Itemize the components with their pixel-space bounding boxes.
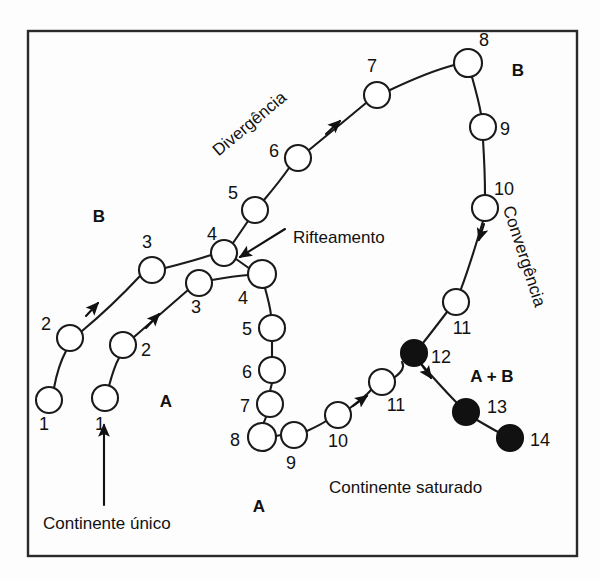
node-label-b7: 7 [367,56,377,76]
node-a8[interactable] [248,423,276,451]
link-a3-a4 [212,275,248,280]
node-label-b5: 5 [228,183,238,203]
link-a4-a5 [265,288,271,315]
node-b1[interactable] [36,387,62,413]
node-a7[interactable] [257,391,283,417]
region-label-a-bottom: A [253,497,265,516]
node-label-b2: 2 [41,314,51,334]
link-a9-a10 [307,421,326,431]
link-b4-b5 [233,221,248,243]
link-b3-b4 [165,255,211,268]
link-b1-b2 [54,351,66,388]
node-label-b4: 4 [207,224,217,244]
node-a1[interactable] [92,385,118,411]
link-c12-c13 [422,365,457,403]
rifteamento-arrow-icon [240,229,285,257]
node-label-b3: 3 [142,232,152,252]
link-b4-a4 [236,259,250,269]
link-a1-a2 [109,358,119,386]
node-c12[interactable] [401,340,427,366]
link-b11-c12 [423,312,447,343]
link-c13-c14 [477,420,500,433]
node-label-a9: 9 [286,453,296,473]
node-a3[interactable] [186,270,212,296]
node-a4[interactable] [248,260,276,288]
node-c13[interactable] [453,399,479,425]
region-label-a-left: A [160,392,172,411]
wilson-cycle-diagram: 1 2 3 4 5 6 7 8 9 10 11 12 13 14 1 2 3 4… [0,0,600,580]
figure-root: 1 2 3 4 5 6 7 8 9 10 11 12 13 14 1 2 3 4… [0,0,600,580]
node-a2[interactable] [110,332,136,358]
link-b8-b9 [472,77,481,114]
link-a11-c12 [395,362,403,377]
a-convergencia-arrow-icon [353,396,367,406]
node-b7[interactable] [364,82,390,108]
node-b8[interactable] [454,49,482,77]
continente-saturado-label: Continente saturado [329,478,482,497]
region-label-ab: A + B [470,367,513,386]
link-b10-b11 [461,221,483,289]
divergencia-arrow-a-icon [146,314,159,328]
node-label-a3: 3 [191,297,201,317]
link-b9-b10 [483,140,485,195]
node-c14[interactable] [497,425,523,451]
divergencia-arrow-b-icon [86,303,98,316]
node-label-a4: 4 [238,288,248,308]
rifteamento-label: Rifteamento [293,228,385,247]
node-label-a8: 8 [230,430,240,450]
node-a5[interactable] [259,315,285,341]
node-b6[interactable] [285,145,311,171]
node-label-a5: 5 [242,319,252,339]
node-a11[interactable] [369,369,395,395]
link-b2-b3 [82,276,140,331]
node-label-a11: 11 [387,395,406,415]
convergencia-label: Convergência [499,203,550,309]
link-b6-b7 [309,103,366,150]
node-label-a1: 1 [95,414,105,434]
link-b5-b6 [264,168,289,200]
link-b7-b8 [390,65,454,90]
node-label-b11: 11 [453,318,472,338]
node-label-c13: 13 [487,397,507,417]
region-label-b-left: B [93,207,105,226]
link-a2-a3 [134,290,188,337]
node-b5[interactable] [242,197,268,223]
node-b9[interactable] [470,114,496,140]
node-label-b9: 9 [500,119,510,139]
node-b2[interactable] [57,325,83,351]
node-label-a2: 2 [141,340,151,360]
node-label-a10: 10 [328,431,348,451]
node-label-b1: 1 [39,414,49,434]
link-a6-a7 [270,383,272,391]
node-a6[interactable] [259,357,285,383]
node-b3[interactable] [139,257,165,283]
figure-frame [28,31,577,556]
node-label-b8: 8 [479,30,489,50]
node-label-c12: 12 [431,347,451,367]
node-label-c14: 14 [530,430,550,450]
node-label-a6: 6 [242,362,252,382]
node-label-b10: 10 [494,179,514,199]
region-label-b-right: B [512,61,524,80]
node-b11[interactable] [443,289,469,315]
continente-unico-label: Continente único [43,514,171,533]
node-label-b6: 6 [269,141,279,161]
node-a9[interactable] [281,422,307,448]
node-a10[interactable] [325,402,351,428]
node-label-a7: 7 [240,396,250,416]
